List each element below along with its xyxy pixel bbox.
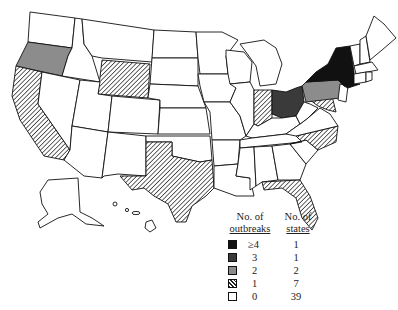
legend-swatch-0 xyxy=(228,292,237,301)
state-maine xyxy=(366,16,396,60)
legend-row: 0 39 xyxy=(218,291,398,304)
legend-swatch-2 xyxy=(228,266,237,275)
legend-header-states: No. of states xyxy=(278,211,318,235)
legend-swatch-3 xyxy=(228,253,237,262)
legend-swatch-ge4 xyxy=(228,240,237,249)
state-arkansas xyxy=(212,140,240,166)
state-south-dakota xyxy=(150,58,198,86)
state-new-mexico xyxy=(102,132,146,178)
legend-swatch-1 xyxy=(228,279,237,288)
state-kansas xyxy=(158,108,210,134)
states xyxy=(12,12,396,232)
state-north-dakota xyxy=(152,30,198,58)
state-wyoming xyxy=(98,60,150,98)
state-montana xyxy=(82,19,154,62)
legend-row: ≥4 1 xyxy=(218,239,398,252)
state-pennsylvania xyxy=(302,80,344,102)
state-rhode-island xyxy=(366,72,372,82)
legend-row: 2 2 xyxy=(218,265,398,278)
state-hawaii xyxy=(113,202,156,232)
legend-header-outbreaks: No. of outbreaks xyxy=(218,211,282,235)
state-connecticut xyxy=(354,72,366,84)
legend-row: 1 7 xyxy=(218,278,398,291)
state-colorado xyxy=(108,96,160,134)
legend-row: 3 1 xyxy=(218,252,398,265)
state-alaska xyxy=(38,178,104,228)
